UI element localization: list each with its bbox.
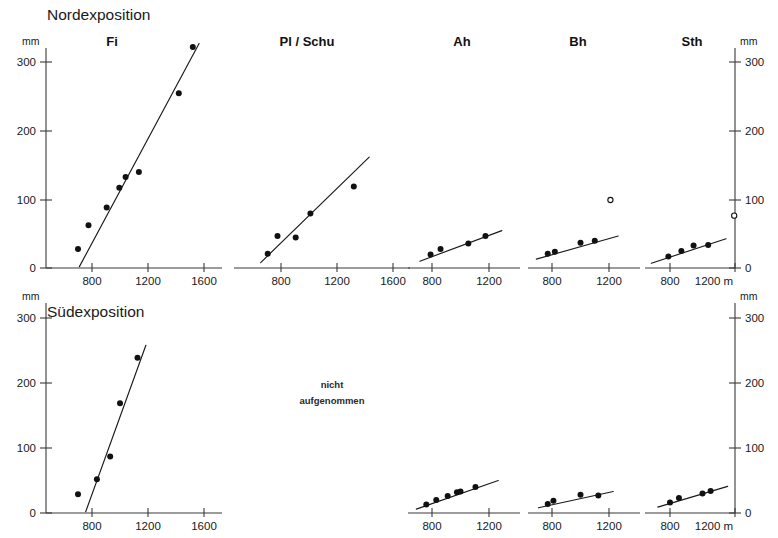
data-point-south-bh-0-3 bbox=[595, 492, 601, 498]
x-tick-label-800-south-fi: 800 bbox=[82, 520, 101, 532]
y-tick-100-top-right: 100 bbox=[745, 194, 764, 206]
right-axis-unit-top: mm bbox=[740, 35, 758, 47]
data-point-north-fi-0-2 bbox=[104, 204, 110, 210]
top-right-y-axis: mm 300 200 100 0 1200 m bbox=[695, 35, 764, 287]
data-point-north-bh-0-2 bbox=[578, 240, 584, 246]
panel-south-ah: 8001200 bbox=[408, 481, 520, 533]
data-point-north-fi-0-7 bbox=[190, 44, 196, 50]
panel-title-north-fi: Fi bbox=[106, 34, 118, 49]
data-point-south-fi-0-1 bbox=[94, 476, 100, 482]
data-point-north-plschu-0-1 bbox=[275, 233, 281, 239]
data-point-north-fi-0-1 bbox=[86, 222, 92, 228]
data-point-north-sth-0-3 bbox=[705, 242, 711, 248]
note-line-2: aufgenommen bbox=[300, 395, 365, 406]
left-axis-unit-top: mm bbox=[22, 35, 40, 47]
note-line-1: nicht bbox=[321, 379, 345, 390]
data-point-south-ah-1-0 bbox=[458, 489, 464, 495]
data-point-north-plschu-0-2 bbox=[293, 234, 299, 240]
data-point-south-fi-0-0 bbox=[75, 491, 81, 497]
row-title-north: Nordexposition bbox=[47, 6, 150, 23]
data-point-north-bh-1-0 bbox=[608, 197, 613, 202]
y-tick-0-bottom-right: 0 bbox=[745, 507, 751, 519]
y-tick-200-bottom-right: 200 bbox=[745, 377, 764, 389]
data-point-south-sth-0-1 bbox=[676, 495, 682, 501]
left-axis-unit-bottom: mm bbox=[22, 290, 40, 302]
panel-title-north-sth: Sth bbox=[682, 34, 703, 49]
data-point-north-sth-1-0 bbox=[732, 213, 737, 218]
y-tick-300-top-right: 300 bbox=[745, 56, 764, 68]
y-tick-0-bottom-left: 0 bbox=[30, 507, 36, 519]
y-tick-100-bottom-left: 100 bbox=[17, 442, 36, 454]
bottom-right-y-axis: mm 300 200 100 0 1200 m bbox=[695, 290, 764, 532]
x-end-label-top: 1200 m bbox=[695, 275, 733, 287]
data-point-north-fi-0-4 bbox=[123, 174, 129, 180]
x-tick-label-1200-south-fi: 1200 bbox=[135, 520, 161, 532]
x-tick-label-800-north-fi: 800 bbox=[82, 275, 101, 287]
data-point-south-ah-0-1 bbox=[433, 497, 439, 503]
data-point-north-bh-0-1 bbox=[552, 249, 558, 255]
data-point-north-fi-0-6 bbox=[176, 90, 182, 96]
data-point-north-ah-0-2 bbox=[465, 241, 471, 247]
regression-line-north-plschu bbox=[261, 157, 370, 262]
data-point-south-fi-0-2 bbox=[107, 453, 113, 459]
x-tick-label-800-south-sth: 800 bbox=[660, 520, 679, 532]
y-tick-0-top-right: 0 bbox=[745, 262, 751, 274]
data-point-south-bh-0-0 bbox=[545, 501, 551, 507]
x-tick-label-800-north-ah: 800 bbox=[422, 275, 441, 287]
data-point-north-ah-0-1 bbox=[438, 246, 444, 252]
panel-title-north-bh: Bh bbox=[569, 34, 586, 49]
row-title-south: Südexposition bbox=[47, 303, 144, 320]
top-left-y-axis: mm 300 200 100 0 bbox=[17, 35, 52, 274]
bottom-left-y-axis: mm 300 200 100 0 bbox=[17, 290, 52, 519]
data-point-south-ah-0-0 bbox=[423, 502, 429, 508]
data-point-north-fi-0-5 bbox=[136, 169, 142, 175]
right-axis-unit-bottom: mm bbox=[740, 290, 758, 302]
y-tick-100-top-left: 100 bbox=[17, 194, 36, 206]
y-tick-300-top-left: 300 bbox=[17, 56, 36, 68]
data-point-north-fi-0-0 bbox=[75, 246, 81, 252]
x-tick-label-1600-north-plschu: 1600 bbox=[380, 275, 406, 287]
x-tick-label-1600-south-fi: 1600 bbox=[191, 520, 217, 532]
data-point-north-sth-0-1 bbox=[678, 248, 684, 254]
data-point-south-sth-0-0 bbox=[667, 500, 673, 506]
y-tick-200-top-right: 200 bbox=[745, 125, 764, 137]
panel-north-fi: 80012001600 bbox=[46, 44, 222, 287]
data-point-south-fi-0-4 bbox=[135, 355, 141, 361]
data-point-north-bh-0-3 bbox=[592, 238, 598, 244]
chart-canvas: Nordexposition Südexposition mm 300 200 … bbox=[0, 0, 778, 538]
plots-layer: 8001200160080012001600800120080012008008… bbox=[46, 44, 737, 532]
data-point-south-bh-0-2 bbox=[578, 492, 584, 498]
data-point-north-plschu-0-3 bbox=[307, 211, 313, 217]
panel-south-fi: 80012001600 bbox=[46, 345, 222, 532]
panel-title-north-ah: Ah bbox=[453, 34, 470, 49]
data-point-north-bh-0-0 bbox=[545, 251, 551, 257]
y-tick-200-top-left: 200 bbox=[17, 125, 36, 137]
x-tick-label-1200-north-ah: 1200 bbox=[476, 275, 502, 287]
data-point-south-fi-0-3 bbox=[117, 400, 123, 406]
x-tick-label-1600-north-fi: 1600 bbox=[191, 275, 217, 287]
y-tick-100-bottom-right: 100 bbox=[745, 442, 764, 454]
regression-line-north-sth bbox=[651, 239, 726, 263]
panel-north-plschu: 80012001600 bbox=[234, 157, 410, 287]
data-point-south-sth-0-2 bbox=[700, 491, 706, 497]
figure-root: Nordexposition Südexposition mm 300 200 … bbox=[0, 0, 778, 538]
x-tick-label-1200-south-ah: 1200 bbox=[476, 520, 502, 532]
x-tick-label-800-north-bh: 800 bbox=[542, 275, 561, 287]
x-tick-label-1200-north-bh: 1200 bbox=[596, 275, 622, 287]
regression-line-south-fi bbox=[86, 345, 146, 511]
data-point-north-ah-0-3 bbox=[482, 233, 488, 239]
x-tick-label-800-north-sth: 800 bbox=[660, 275, 679, 287]
regression-line-north-fi bbox=[79, 44, 199, 267]
data-point-south-ah-0-4 bbox=[472, 484, 478, 490]
panel-title-north-plschu: Pl / Schu bbox=[280, 34, 335, 49]
data-point-south-bh-0-1 bbox=[550, 498, 556, 504]
x-tick-label-1200-north-fi: 1200 bbox=[135, 275, 161, 287]
x-tick-label-1200-south-bh: 1200 bbox=[596, 520, 622, 532]
panel-north-ah: 8001200 bbox=[408, 231, 520, 287]
x-end-label-bottom: 1200 m bbox=[695, 520, 733, 532]
panel-north-bh: 8001200 bbox=[528, 197, 640, 287]
x-tick-label-1200-north-plschu: 1200 bbox=[324, 275, 350, 287]
data-point-north-sth-0-2 bbox=[691, 243, 697, 249]
y-tick-0-top-left: 0 bbox=[30, 262, 36, 274]
x-tick-label-800-south-ah: 800 bbox=[422, 520, 441, 532]
